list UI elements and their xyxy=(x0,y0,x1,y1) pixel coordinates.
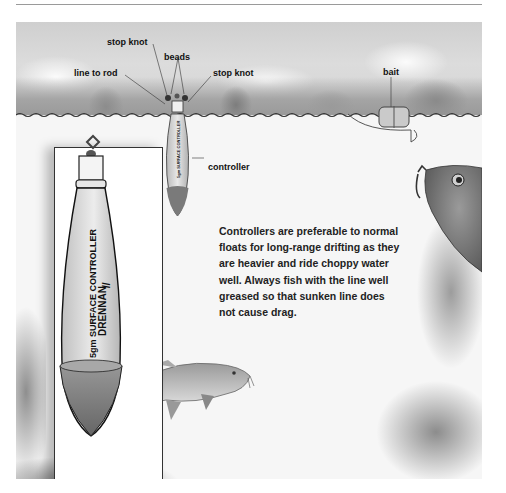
svg-text:5gm SURFACE CONTROLLER: 5gm SURFACE CONTROLLER xyxy=(176,121,181,178)
bait-cube-icon xyxy=(378,106,410,128)
top-rule xyxy=(16,4,482,5)
controller-float-large: 5gm SURFACE CONTROLLER DRENNAN // xyxy=(39,126,146,463)
caption-text: Controllers are preferable to normal flo… xyxy=(219,223,409,320)
label-stop-knot-right: stop knot xyxy=(213,68,254,78)
caption-line: greased so that sunken line does xyxy=(219,288,409,304)
label-line-to-rod: line to rod xyxy=(74,68,118,78)
label-stop-knot-top: stop knot xyxy=(107,37,148,47)
caption-line: floats for long-range drifting as they xyxy=(219,239,409,255)
caption-line: Controllers are preferable to normal xyxy=(219,223,409,239)
controller-float-small: 5gm SURFACE CONTROLLER xyxy=(158,88,198,228)
label-beads: beads xyxy=(164,52,190,62)
caption-line: not cause drag. xyxy=(219,304,409,320)
caption-line: well. Always fish with the line well xyxy=(219,272,409,288)
brand-logo-icon: // xyxy=(101,282,112,288)
label-bait: bait xyxy=(383,67,399,77)
label-controller: controller xyxy=(208,162,250,172)
carp-fish-illustration xyxy=(146,360,266,440)
caption-line: are heavier and ride choppy water xyxy=(219,255,409,271)
inset-brand-text: DRENNAN xyxy=(97,286,108,336)
